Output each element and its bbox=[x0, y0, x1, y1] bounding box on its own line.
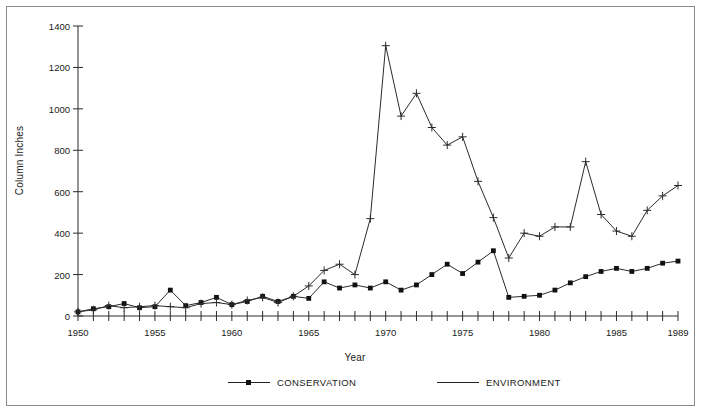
y-tick-label: 0 bbox=[22, 311, 70, 322]
y-tick-label: 400 bbox=[22, 228, 70, 239]
legend-swatch-environment bbox=[437, 378, 479, 388]
x-tick-label: 1975 bbox=[452, 327, 473, 338]
x-axis-title: Year bbox=[300, 352, 410, 363]
y-tick-label: 800 bbox=[22, 145, 70, 156]
x-tick-label: 1955 bbox=[144, 327, 165, 338]
legend-label-conservation: CONSERVATION bbox=[277, 377, 356, 388]
y-tick-label: 600 bbox=[22, 186, 70, 197]
y-tick-label: 200 bbox=[22, 269, 70, 280]
x-tick-label: 1985 bbox=[606, 327, 627, 338]
legend-entry-conservation: CONSERVATION bbox=[228, 377, 356, 388]
y-axis-title: Column Inches bbox=[14, 106, 25, 216]
y-tick-label: 1000 bbox=[22, 103, 70, 114]
x-tick-label: 1970 bbox=[375, 327, 396, 338]
legend-entry-environment: ENVIRONMENT bbox=[437, 377, 561, 388]
chart-legend: CONSERVATION ENVIRONMENT bbox=[0, 375, 702, 399]
series-conservation bbox=[76, 248, 681, 314]
x-tick-label: 1989 bbox=[667, 327, 688, 338]
x-tick-label: 1965 bbox=[298, 327, 319, 338]
x-tick-label: 1980 bbox=[529, 327, 550, 338]
y-tick-label: 1200 bbox=[22, 62, 70, 73]
legend-swatch-conservation bbox=[228, 378, 270, 388]
x-tick-label: 1960 bbox=[221, 327, 242, 338]
chart-page: Column Inches Year 020040060080010001200… bbox=[0, 0, 702, 414]
y-tick-label: 1400 bbox=[22, 21, 70, 32]
x-tick-label: 1950 bbox=[67, 327, 88, 338]
legend-label-environment: ENVIRONMENT bbox=[486, 377, 561, 388]
